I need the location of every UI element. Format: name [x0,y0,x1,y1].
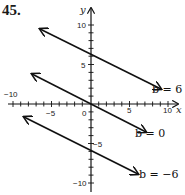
tick-label-x: −5 [46,109,56,118]
tick-label-x: 5 [127,106,132,115]
tick-label-x: −10 [4,90,18,99]
tick-label-x: 0 [82,109,87,118]
tick-label-y: 5 [81,61,86,70]
y-axis-label: y [79,4,86,15]
tick-label-x: 10 [163,106,172,115]
line-label-b0: b = 0 [135,127,165,140]
tick-label-y: −10 [73,179,87,188]
tick-label-y: −5 [93,140,103,149]
line-label-bneg6: b = −6 [139,168,178,181]
x-axis-label: x [176,104,182,115]
line-b-6: b = 6 [40,29,182,96]
graph: −10 −5 0 5 10 x y 10 5 −5 −10 b = 6 [0,0,185,195]
tick-label-y: 10 [77,21,86,30]
line-label-b6: b = 6 [152,83,182,96]
